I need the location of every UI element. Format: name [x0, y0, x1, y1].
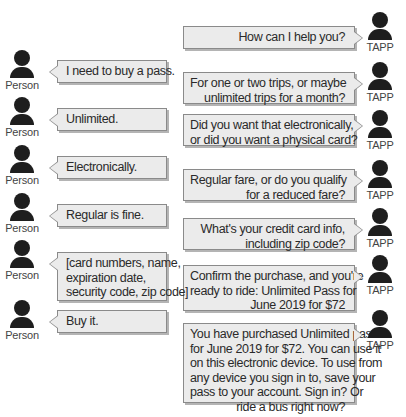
message-text: or did you want a physical card?: [190, 133, 345, 148]
message-text: For one or two trips, or maybe: [190, 76, 345, 91]
message-text: for a reduced fare?: [190, 188, 345, 203]
message-text: Electronically.: [66, 160, 160, 175]
tapp-avatar: TAPP: [360, 110, 400, 151]
message-text: Regular fare, or do you qualify: [190, 173, 345, 188]
user-icon: [14, 240, 30, 256]
person-avatar: Person: [2, 50, 42, 91]
tapp-label: TAPP: [360, 237, 400, 249]
tapp-label: TAPP: [360, 339, 400, 351]
tapp-avatar: TAPP: [360, 62, 400, 103]
speech-tail: [49, 257, 58, 271]
tapp-avatar: TAPP: [360, 12, 400, 53]
tapp-message-2: For one or two trips, or maybe unlimited…: [183, 72, 355, 104]
user-icon: [372, 12, 388, 28]
person-avatar: Person: [2, 145, 42, 186]
message-text: What's your credit card info,: [190, 222, 345, 237]
person-label: Person: [2, 79, 42, 91]
message-text: Buy it.: [66, 314, 160, 329]
user-icon: [14, 300, 30, 316]
message-text: ride a bus right now?: [190, 400, 345, 415]
message-text: expiration date,: [66, 271, 160, 286]
message-text: pass to your account. Sign in? Or: [190, 385, 345, 400]
tapp-message-7: You have purchased Unlimited pass for Ju…: [183, 323, 355, 403]
user-icon: [14, 97, 30, 113]
speech-tail: [49, 315, 58, 329]
tapp-message-3: Did you want that electronically, or did…: [183, 114, 355, 146]
message-text: any device you sign in to, save your: [190, 371, 345, 386]
user-icon: [372, 160, 388, 176]
speech-tail: [49, 209, 58, 223]
message-text: ready to ride: Unlimited Pass for: [190, 284, 345, 299]
message-text: Confirm the purchase, and you're: [190, 269, 345, 284]
tapp-message-5: What's your credit card info, including …: [183, 218, 355, 250]
message-text: Regular is fine.: [66, 208, 160, 223]
person-message-2: Unlimited.: [57, 108, 167, 131]
person-avatar: Person: [2, 97, 42, 138]
message-text: on this electronic device. To use from: [190, 356, 345, 371]
tapp-avatar: TAPP: [360, 160, 400, 201]
person-message-3: Electronically.: [57, 156, 167, 179]
person-label: Person: [2, 329, 42, 341]
user-icon: [372, 310, 388, 326]
message-text: Unlimited.: [66, 112, 160, 127]
speech-tail: [49, 113, 58, 127]
message-text: You have purchased Unlimited pass: [190, 327, 345, 342]
person-message-1: I need to buy a pass.: [57, 60, 167, 83]
person-message-5: [card numbers, name, expiration date, se…: [57, 252, 167, 301]
user-icon: [14, 145, 30, 161]
user-icon: [372, 208, 388, 224]
tapp-label: TAPP: [360, 41, 400, 53]
person-label: Person: [2, 222, 42, 234]
user-icon: [14, 50, 30, 66]
tapp-avatar: TAPP: [360, 255, 400, 296]
message-text: for June 2019 for $72. You can use it: [190, 342, 345, 357]
user-icon: [372, 255, 388, 271]
message-text: security code, zip code]: [66, 285, 160, 300]
tapp-message-6: Confirm the purchase, and you're ready t…: [183, 265, 355, 311]
tapp-avatar: TAPP: [360, 208, 400, 249]
message-text: June 2019 for $72: [190, 298, 345, 313]
tapp-label: TAPP: [360, 139, 400, 151]
tapp-message-4: Regular fare, or do you qualify for a re…: [183, 169, 355, 201]
user-icon: [14, 193, 30, 209]
person-label: Person: [2, 269, 42, 281]
tapp-label: TAPP: [360, 189, 400, 201]
person-label: Person: [2, 126, 42, 138]
message-text: [card numbers, name,: [66, 256, 160, 271]
person-avatar: Person: [2, 300, 42, 341]
tapp-label: TAPP: [360, 284, 400, 296]
speech-tail: [49, 161, 58, 175]
user-icon: [372, 62, 388, 78]
person-avatar: Person: [2, 240, 42, 281]
person-message-6: Buy it.: [57, 310, 167, 333]
person-message-4: Regular is fine.: [57, 204, 167, 227]
person-avatar: Person: [2, 193, 42, 234]
message-text: including zip code?: [190, 237, 345, 252]
speech-tail: [49, 65, 58, 79]
person-label: Person: [2, 174, 42, 186]
tapp-message-1: How can I help you?: [183, 26, 355, 49]
tapp-label: TAPP: [360, 91, 400, 103]
message-text: How can I help you?: [190, 30, 345, 45]
message-text: Did you want that electronically,: [190, 118, 345, 133]
tapp-avatar: TAPP: [360, 310, 400, 351]
user-icon: [372, 110, 388, 126]
message-text: I need to buy a pass.: [66, 64, 160, 79]
message-text: unlimited trips for a month?: [190, 91, 345, 106]
